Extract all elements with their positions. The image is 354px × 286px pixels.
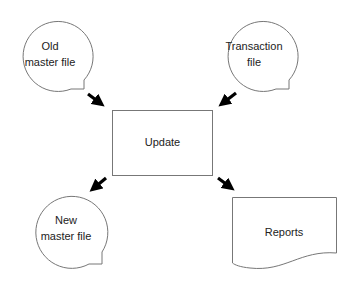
label-line: file [219, 54, 289, 70]
arrow-transaction-to-update [223, 93, 236, 103]
reports-label: Reports [232, 224, 336, 240]
update-label: Update [112, 134, 213, 150]
label-line: master file [30, 228, 102, 244]
arrow-old-to-update [88, 94, 100, 103]
new-master-file-label: New master file [30, 212, 102, 244]
arrow-update-to-new-master [94, 178, 106, 188]
transaction-file-label: Transaction file [219, 38, 289, 70]
label-line: Update [112, 134, 213, 150]
label-line: master file [15, 54, 85, 70]
label-line: Old [15, 38, 85, 54]
old-master-file-label: Old master file [15, 38, 85, 70]
label-line: New [30, 212, 102, 228]
arrow-update-to-reports [218, 178, 230, 187]
label-line: Transaction [219, 38, 289, 54]
label-line: Reports [232, 224, 336, 240]
